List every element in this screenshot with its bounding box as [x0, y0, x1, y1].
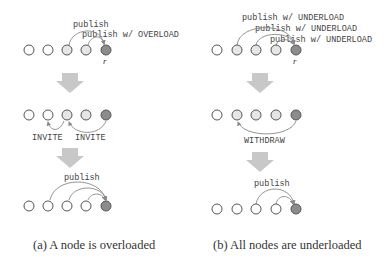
edge-publish-3 — [88, 194, 105, 200]
node-2 — [43, 110, 53, 120]
label-publish: publish — [64, 173, 100, 183]
caption-b: (b) All nodes are underloaded — [213, 238, 362, 252]
panel-a-step3: publish — [24, 173, 111, 211]
edge-invite-2 — [69, 121, 106, 132]
down-arrow-icon — [246, 73, 274, 93]
label-publish: publish — [254, 179, 290, 189]
node-root — [291, 45, 301, 55]
node-4 — [271, 204, 281, 214]
node-1 — [212, 45, 222, 55]
node-root — [291, 204, 301, 214]
node-root-label: r — [293, 56, 297, 66]
panel-a: publish publish w/ OVERLOAD r INVITE INV… — [24, 20, 179, 252]
panel-b-step3: publish — [212, 179, 301, 214]
node-root — [101, 110, 111, 120]
panel-b-step1: publish w/ UNDERLOAD publish w/ UNDERLOA… — [212, 13, 372, 66]
down-arrow-icon — [246, 152, 274, 172]
node-3 — [62, 110, 72, 120]
panel-a-step2: INVITE INVITE — [24, 110, 111, 143]
caption-a: (a) A node is overloaded — [33, 238, 156, 252]
edge-invite-1 — [48, 121, 64, 129]
node-4 — [81, 45, 91, 55]
node-2 — [232, 45, 242, 55]
node-1 — [212, 110, 222, 120]
node-4 — [271, 110, 281, 120]
node-root — [101, 45, 111, 55]
node-1 — [24, 110, 34, 120]
node-4 — [81, 201, 91, 211]
down-arrow-icon — [56, 148, 84, 168]
node-root — [291, 110, 301, 120]
diagram-canvas: publish publish w/ OVERLOAD r INVITE INV… — [0, 0, 392, 262]
panel-b-step2: WITHDRAW — [212, 110, 301, 146]
down-arrow-icon — [56, 73, 84, 93]
node-2 — [43, 201, 53, 211]
label-publish: publish — [73, 20, 109, 30]
label-publish-overload: publish w/ OVERLOAD — [82, 30, 179, 40]
panel-b: publish w/ UNDERLOAD publish w/ UNDERLOA… — [212, 13, 372, 252]
edge-publish-1 — [50, 182, 106, 200]
edge-withdraw — [238, 121, 296, 134]
label-publish-underload-1: publish w/ UNDERLOAD — [242, 13, 344, 23]
node-2 — [43, 45, 53, 55]
node-root-label: r — [103, 56, 107, 66]
node-1 — [24, 201, 34, 211]
edge-publish-1 — [256, 189, 294, 204]
node-1 — [212, 204, 222, 214]
node-4 — [81, 110, 91, 120]
node-3 — [62, 201, 72, 211]
node-2 — [232, 204, 242, 214]
label-publish-underload-2: publish w/ UNDERLOAD — [255, 24, 357, 34]
node-3 — [251, 110, 261, 120]
edge-publish-2 — [276, 197, 293, 205]
node-1 — [24, 45, 34, 55]
node-3 — [251, 204, 261, 214]
node-3 — [251, 45, 261, 55]
panel-a-step1: publish publish w/ OVERLOAD r — [24, 20, 179, 66]
label-invite-1: INVITE — [32, 133, 63, 143]
node-2 — [232, 110, 242, 120]
node-4 — [271, 45, 281, 55]
node-3 — [62, 45, 72, 55]
label-invite-2: INVITE — [75, 133, 106, 143]
node-root — [101, 201, 111, 211]
label-withdraw: WITHDRAW — [244, 136, 286, 146]
